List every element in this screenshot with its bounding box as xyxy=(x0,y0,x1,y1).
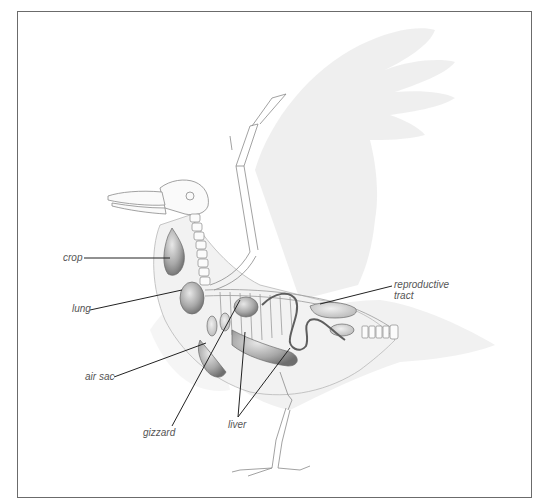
gizzard-organ xyxy=(234,297,258,317)
crop-label: crop xyxy=(63,252,82,263)
tail-vertebrae xyxy=(362,325,398,339)
lung-organ xyxy=(180,282,204,314)
gizzard-label: gizzard xyxy=(143,427,175,438)
lung-label: lung xyxy=(72,303,91,314)
reproductive-tract-label-line2: tract xyxy=(394,290,413,301)
skull xyxy=(108,180,208,215)
liver-label: liver xyxy=(228,419,246,430)
reproductive-tract-label-line1: reproductive xyxy=(394,279,449,290)
air-sac-label: air sac xyxy=(85,371,114,382)
